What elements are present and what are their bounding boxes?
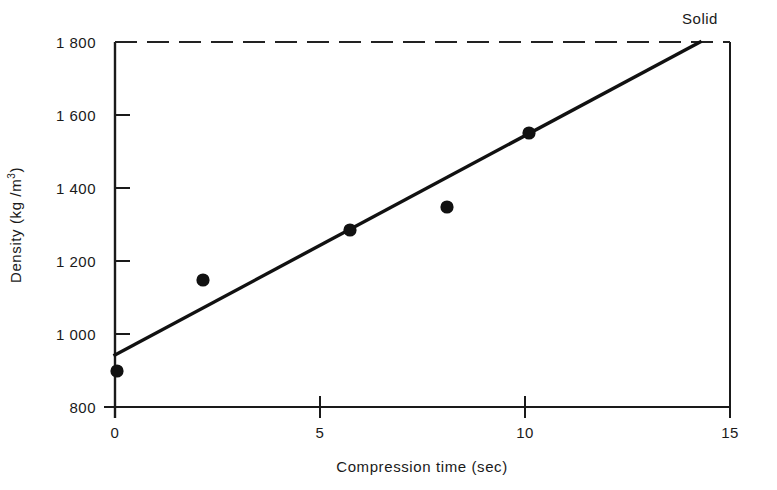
trend-line xyxy=(115,42,700,355)
y-tick-label-1600: 1 600 xyxy=(30,107,96,124)
density-vs-compression-time-chart: 1 800 1 600 1 400 1 200 1 000 800 0 5 10… xyxy=(0,0,777,490)
chart-plot-area xyxy=(0,0,777,490)
data-point-5 xyxy=(522,126,535,139)
y-axis-title: Density (kg /m3) xyxy=(6,167,24,283)
x-tick-label-5: 5 xyxy=(316,424,325,441)
y-tick-label-800: 800 xyxy=(30,399,96,416)
data-point-4 xyxy=(440,200,453,213)
x-axis-title: Compression time (sec) xyxy=(336,458,508,475)
y-axis-title-exponent: 3 xyxy=(6,173,17,179)
y-axis-title-text: Density (kg /m xyxy=(7,179,24,283)
data-point-2 xyxy=(196,273,209,286)
y-tick-label-1400: 1 400 xyxy=(30,180,96,197)
y-axis-title-tail: ) xyxy=(7,167,24,173)
x-tick-label-15: 15 xyxy=(721,424,739,441)
y-tick-label-1800: 1 800 xyxy=(30,34,96,51)
x-tick-label-0: 0 xyxy=(111,424,120,441)
x-tick-label-10: 10 xyxy=(516,424,534,441)
solid-reference-label: Solid xyxy=(682,10,718,27)
y-tick-label-1000: 1 000 xyxy=(30,326,96,343)
data-point-1 xyxy=(110,364,123,377)
data-point-3 xyxy=(343,223,356,236)
y-tick-label-1200: 1 200 xyxy=(30,253,96,270)
